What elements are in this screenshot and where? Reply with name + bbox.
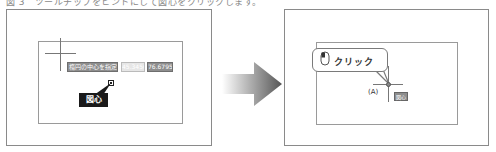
tooltip-prompt: 楕円の中心を指定 [67, 62, 118, 72]
point-a-label: (A) [368, 88, 378, 96]
transition-arrow-icon [222, 60, 284, 108]
click-instruction-text: クリック [334, 55, 374, 68]
crosshair-cursor-horizontal [45, 53, 76, 54]
tooltip-x-input[interactable]: 45.3456 [121, 62, 145, 72]
crosshair-cursor-vertical [60, 38, 61, 71]
centroid-callout: 図心 [79, 93, 108, 107]
tooltip-y-input[interactable]: 76.6795 [147, 62, 173, 72]
osnap-centroid-badge: 図心 [394, 92, 408, 101]
snap-point-marker[interactable] [386, 82, 391, 87]
mouse-left-click-icon [320, 51, 330, 66]
figure-caption: 図 3 ツールチップをヒントにして図心をクリックします。 [6, 0, 262, 8]
